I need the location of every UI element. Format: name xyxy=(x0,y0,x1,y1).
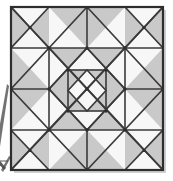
quilt-block-canvas xyxy=(0,0,173,181)
quilt-block-figure xyxy=(0,0,173,181)
main-quilt-block xyxy=(9,5,164,171)
